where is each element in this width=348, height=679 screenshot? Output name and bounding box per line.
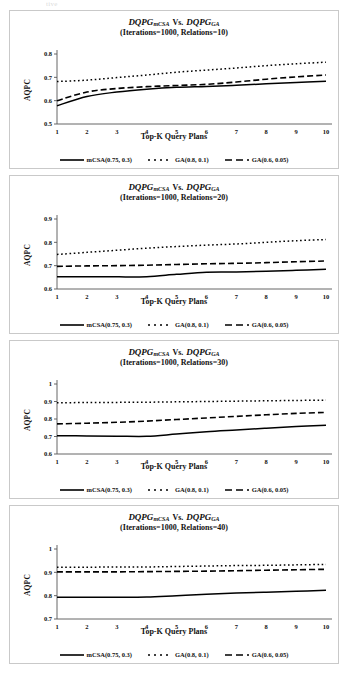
svg-text:0.9: 0.9 xyxy=(44,215,53,222)
x-axis-label: Top-K Query Plans xyxy=(10,627,338,636)
legend-item-ga-08: GA(0.8, 0.1) xyxy=(148,321,209,328)
legend-label-ga-06: GA(0.6, 0.05) xyxy=(252,321,289,328)
legend-item-mcsa: mCSA(0.75, 0.3) xyxy=(60,321,133,328)
legend-line-solid-icon xyxy=(60,158,84,162)
plot-area: AQPC 0.60.70.80.9112345678910 Top-K Quer… xyxy=(10,341,338,498)
legend-item-mcsa: mCSA(0.75, 0.3) xyxy=(60,651,133,658)
svg-text:0.7: 0.7 xyxy=(44,74,53,81)
legend-line-solid-icon xyxy=(60,323,84,327)
chart-legend: mCSA(0.75, 0.3) GA(0.8, 0.1) GA(0.6, 0.0… xyxy=(10,651,338,658)
svg-text:0.7: 0.7 xyxy=(44,262,53,269)
legend-line-dotted-icon xyxy=(148,488,172,492)
legend-line-dashed-icon xyxy=(225,488,249,492)
legend-line-solid-icon xyxy=(60,653,84,657)
legend-label-ga-08: GA(0.8, 0.1) xyxy=(175,321,209,328)
svg-text:0.8: 0.8 xyxy=(44,239,53,246)
legend-label-mcsa: mCSA(0.75, 0.3) xyxy=(87,486,133,493)
legend-item-ga-08: GA(0.8, 0.1) xyxy=(148,156,209,163)
legend-line-solid-icon xyxy=(60,488,84,492)
legend-label-ga-08: GA(0.8, 0.1) xyxy=(175,156,209,163)
legend-item-mcsa: mCSA(0.75, 0.3) xyxy=(60,486,133,493)
chart-legend: mCSA(0.75, 0.3) GA(0.8, 0.1) GA(0.6, 0.0… xyxy=(10,156,338,163)
legend-label-mcsa: mCSA(0.75, 0.3) xyxy=(87,651,133,658)
legend-label-ga-08: GA(0.8, 0.1) xyxy=(175,651,209,658)
svg-text:0.7: 0.7 xyxy=(44,433,53,440)
svg-text:0.8: 0.8 xyxy=(44,415,53,422)
legend-label-mcsa: mCSA(0.75, 0.3) xyxy=(87,321,133,328)
legend-item-ga-06: GA(0.6, 0.05) xyxy=(225,651,289,658)
svg-text:0.5: 0.5 xyxy=(44,120,53,127)
plot-area: AQPC 0.50.60.70.812345678910 Top-K Query… xyxy=(10,11,338,168)
chart-panel-relations-40: DQPGmCSAVs.DQPGGA (Iterations=1000, Rela… xyxy=(9,505,339,664)
plot-svg: 0.60.70.80.912345678910 xyxy=(10,176,340,335)
chart-legend: mCSA(0.75, 0.3) GA(0.8, 0.1) GA(0.6, 0.0… xyxy=(10,486,338,493)
svg-text:1: 1 xyxy=(49,380,52,387)
chart-panel-relations-30: DQPGmCSAVs.DQPGGA (Iterations=1000, Rela… xyxy=(9,340,339,499)
svg-text:0.8: 0.8 xyxy=(44,592,53,599)
svg-text:1: 1 xyxy=(49,545,52,552)
x-axis-label: Top-K Query Plans xyxy=(10,132,338,141)
x-axis-label: Top-K Query Plans xyxy=(10,462,338,471)
legend-line-dashed-icon xyxy=(225,158,249,162)
legend-item-ga-06: GA(0.6, 0.05) xyxy=(225,321,289,328)
legend-line-dotted-icon xyxy=(148,323,172,327)
plot-svg: 0.70.80.9112345678910 xyxy=(10,506,340,665)
svg-text:0.6: 0.6 xyxy=(44,450,53,457)
chart-panel-relations-20: DQPGmCSAVs.DQPGGA (Iterations=1000, Rela… xyxy=(9,175,339,334)
legend-item-ga-08: GA(0.8, 0.1) xyxy=(148,651,209,658)
chart-legend: mCSA(0.75, 0.3) GA(0.8, 0.1) GA(0.6, 0.0… xyxy=(10,321,338,328)
chart-panel-relations-10: DQPGmCSAVs.DQPGGA (Iterations=1000, Rela… xyxy=(9,10,339,169)
legend-item-mcsa: mCSA(0.75, 0.3) xyxy=(60,156,133,163)
x-axis-label: Top-K Query Plans xyxy=(10,297,338,306)
legend-label-ga-06: GA(0.6, 0.05) xyxy=(252,651,289,658)
legend-label-ga-08: GA(0.8, 0.1) xyxy=(175,486,209,493)
figure-page: tive DQPGmCSAVs.DQPGGA (Iterations=1000,… xyxy=(0,0,348,679)
plot-svg: 0.60.70.80.9112345678910 xyxy=(10,341,340,500)
plot-svg: 0.50.60.70.812345678910 xyxy=(10,11,340,170)
svg-text:0.6: 0.6 xyxy=(44,285,53,292)
top-cut-text: tive xyxy=(46,0,166,7)
svg-text:0.7: 0.7 xyxy=(44,615,53,622)
svg-text:0.6: 0.6 xyxy=(44,97,53,104)
plot-area: AQPC 0.60.70.80.912345678910 Top-K Query… xyxy=(10,176,338,333)
legend-item-ga-06: GA(0.6, 0.05) xyxy=(225,156,289,163)
svg-text:0.9: 0.9 xyxy=(44,569,53,576)
legend-line-dotted-icon xyxy=(148,158,172,162)
legend-line-dotted-icon xyxy=(148,653,172,657)
legend-item-ga-08: GA(0.8, 0.1) xyxy=(148,486,209,493)
svg-text:0.9: 0.9 xyxy=(44,398,53,405)
legend-label-ga-06: GA(0.6, 0.05) xyxy=(252,486,289,493)
legend-line-dashed-icon xyxy=(225,653,249,657)
legend-label-ga-06: GA(0.6, 0.05) xyxy=(252,156,289,163)
legend-item-ga-06: GA(0.6, 0.05) xyxy=(225,486,289,493)
plot-area: AQPC 0.70.80.9112345678910 Top-K Query P… xyxy=(10,506,338,663)
svg-text:0.8: 0.8 xyxy=(44,50,53,57)
legend-label-mcsa: mCSA(0.75, 0.3) xyxy=(87,156,133,163)
legend-line-dashed-icon xyxy=(225,323,249,327)
